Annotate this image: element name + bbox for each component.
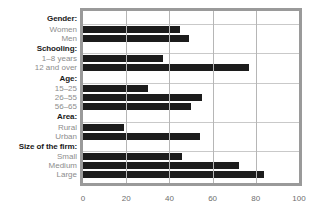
x-tick-label: 100 [292, 194, 305, 203]
bar [83, 162, 239, 169]
group-header-label: Gender: [47, 14, 77, 23]
x-tick-label: 60 [208, 194, 217, 203]
bar [83, 26, 180, 33]
category-label: Women [50, 25, 77, 34]
bar [83, 171, 264, 178]
plot-frame [80, 8, 302, 186]
category-label: 12 and over [35, 63, 77, 72]
group-separator-line [83, 151, 299, 152]
category-label: Men [61, 34, 77, 43]
category-label: 1–8 years [42, 54, 77, 63]
category-label-column: Gender:WomenMenSchooling:1–8 years12 and… [0, 0, 80, 186]
bar-chart: Gender:WomenMenSchooling:1–8 years12 and… [0, 0, 318, 213]
gridline [126, 11, 127, 183]
bar [83, 55, 163, 62]
bar [83, 133, 200, 140]
bar [83, 85, 148, 92]
group-separator-line [83, 122, 299, 123]
bar [83, 124, 124, 131]
x-tick-label: 40 [165, 194, 174, 203]
x-axis: 020406080100 [80, 186, 302, 213]
x-tick-label: 20 [122, 194, 131, 203]
bar [83, 64, 249, 71]
gridline [169, 11, 170, 183]
group-separator-line [83, 53, 299, 54]
category-label: Urban [55, 132, 77, 141]
group-header-label: Size of the firm: [19, 142, 77, 151]
bar [83, 94, 202, 101]
bar [83, 35, 189, 42]
gridline [256, 11, 257, 183]
group-header-label: Schooling: [37, 44, 77, 53]
plot-area [83, 11, 299, 183]
category-label: Medium [49, 161, 77, 170]
category-label: Small [57, 152, 77, 161]
group-separator-line [83, 24, 299, 25]
category-label: Large [57, 170, 77, 179]
bar [83, 153, 182, 160]
x-tick-label: 80 [251, 194, 260, 203]
category-label: Rural [58, 123, 77, 132]
x-tick-label: 0 [81, 194, 85, 203]
group-header-label: Area: [57, 112, 77, 121]
group-separator-line [83, 83, 299, 84]
category-label: 56–65 [55, 102, 77, 111]
group-header-label: Age: [60, 74, 77, 83]
bar [83, 103, 191, 110]
category-label: 15–25 [55, 84, 77, 93]
category-label: 26–55 [55, 93, 77, 102]
gridline [213, 11, 214, 183]
